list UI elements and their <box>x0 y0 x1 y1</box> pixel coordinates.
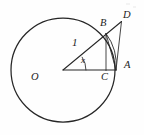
scan-artifact <box>133 6 136 8</box>
scan-artifact <box>126 3 130 5</box>
geometry-figure: O x 1 B D A C <box>0 0 144 135</box>
segment-ad <box>116 22 122 71</box>
label-point-c: C <box>101 72 108 83</box>
label-angle-x: x <box>81 56 85 65</box>
label-point-o: O <box>31 72 39 83</box>
label-radius-one: 1 <box>72 37 78 48</box>
label-point-a: A <box>124 60 130 71</box>
label-point-b: B <box>100 18 106 29</box>
label-point-d: D <box>123 10 131 21</box>
